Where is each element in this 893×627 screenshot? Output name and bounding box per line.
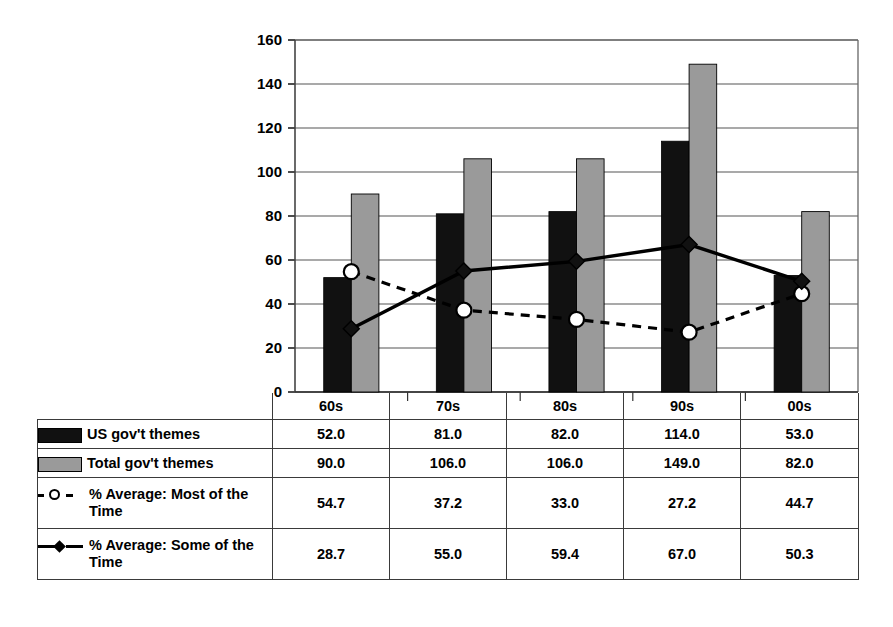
bar-series-total-govt-themes bbox=[351, 64, 829, 392]
table-corner-cell bbox=[38, 393, 273, 420]
bar-us-80s bbox=[549, 212, 577, 392]
marker-most-70s bbox=[456, 303, 471, 318]
marker-most-90s bbox=[682, 325, 697, 340]
bar-us-90s bbox=[662, 141, 690, 392]
legend-label: % Average: Some of the Time bbox=[89, 537, 272, 570]
cell-total-00s: 82.0 bbox=[741, 449, 859, 478]
table-row: % Average: Most of the Time 54.7 37.2 33… bbox=[38, 478, 859, 529]
black-swatch-icon bbox=[38, 428, 82, 443]
marker-most-80s bbox=[569, 312, 584, 327]
legend-some-of-the-time: % Average: Some of the Time bbox=[38, 529, 273, 580]
legend-most-of-the-time: % Average: Most of the Time bbox=[38, 478, 273, 529]
y-tick-label-160: 160 bbox=[257, 31, 282, 48]
cell-total-90s: 149.0 bbox=[624, 449, 741, 478]
table-row: % Average: Some of the Time 28.7 55.0 59… bbox=[38, 529, 859, 580]
cell-us-80s: 82.0 bbox=[507, 420, 624, 449]
cell-us-90s: 114.0 bbox=[624, 420, 741, 449]
y-tick-label-80: 80 bbox=[265, 207, 282, 224]
legend-us-govt-themes: US gov't themes bbox=[38, 420, 273, 449]
chart-page: 020406080100120140160 60s 70s 80 bbox=[0, 0, 893, 627]
column-header-80s: 80s bbox=[507, 393, 624, 420]
y-tick-label-60: 60 bbox=[265, 251, 282, 268]
dashed-circle-line-icon bbox=[38, 488, 84, 502]
cell-us-70s: 81.0 bbox=[390, 420, 507, 449]
cell-us-00s: 53.0 bbox=[741, 420, 859, 449]
bar-series-us-govt-themes bbox=[324, 141, 802, 392]
y-tick-label-100: 100 bbox=[257, 163, 282, 180]
table-header-row: 60s 70s 80s 90s 00s bbox=[38, 393, 859, 420]
legend-label: Total gov't themes bbox=[87, 455, 213, 472]
bar-total-60s bbox=[351, 194, 379, 392]
legend-total-govt-themes: Total gov't themes bbox=[38, 449, 273, 478]
y-tick-label-40: 40 bbox=[265, 295, 282, 312]
legend-label: US gov't themes bbox=[87, 426, 200, 443]
cell-most-90s: 27.2 bbox=[624, 478, 741, 529]
bar-total-90s bbox=[689, 64, 717, 392]
cell-most-00s: 44.7 bbox=[741, 478, 859, 529]
legend-label: % Average: Most of the Time bbox=[89, 486, 272, 519]
cell-some-00s: 50.3 bbox=[741, 529, 859, 580]
cell-total-70s: 106.0 bbox=[390, 449, 507, 478]
column-header-70s: 70s bbox=[390, 393, 507, 420]
column-header-60s: 60s bbox=[273, 393, 390, 420]
y-tick-label-140: 140 bbox=[257, 75, 282, 92]
cell-some-70s: 55.0 bbox=[390, 529, 507, 580]
plot-svg: 020406080100120140160 bbox=[0, 0, 893, 410]
table-row: Total gov't themes 90.0 106.0 106.0 149.… bbox=[38, 449, 859, 478]
cell-total-60s: 90.0 bbox=[273, 449, 390, 478]
bar-us-60s bbox=[324, 278, 352, 392]
cell-most-60s: 54.7 bbox=[273, 478, 390, 529]
y-tick-label-120: 120 bbox=[257, 119, 282, 136]
chart-data-table: 60s 70s 80s 90s 00s US gov't themes 52.0… bbox=[37, 393, 859, 580]
marker-most-60s bbox=[344, 264, 359, 279]
bar-total-00s bbox=[802, 212, 830, 392]
bar-total-80s bbox=[577, 159, 605, 392]
y-tick-label-20: 20 bbox=[265, 339, 282, 356]
gray-swatch-icon bbox=[38, 457, 82, 472]
chart-area: 020406080100120140160 bbox=[0, 0, 893, 410]
cell-some-60s: 28.7 bbox=[273, 529, 390, 580]
column-header-90s: 90s bbox=[624, 393, 741, 420]
cell-some-90s: 67.0 bbox=[624, 529, 741, 580]
column-header-00s: 00s bbox=[741, 393, 859, 420]
y-axis-tick-labels: 020406080100120140160 bbox=[257, 31, 282, 400]
solid-diamond-line-icon bbox=[38, 539, 84, 553]
table-row: US gov't themes 52.0 81.0 82.0 114.0 53.… bbox=[38, 420, 859, 449]
cell-most-70s: 37.2 bbox=[390, 478, 507, 529]
cell-some-80s: 59.4 bbox=[507, 529, 624, 580]
cell-total-80s: 106.0 bbox=[507, 449, 624, 478]
cell-us-60s: 52.0 bbox=[273, 420, 390, 449]
cell-most-80s: 33.0 bbox=[507, 478, 624, 529]
